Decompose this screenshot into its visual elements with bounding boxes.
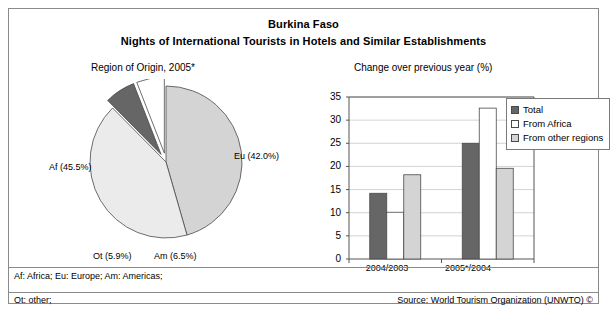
x-axis-tick-1: 2005*/2004 <box>429 263 507 273</box>
y-axis-label-30: 30 <box>319 114 341 125</box>
bar-20042003-from-other-regions <box>404 175 421 259</box>
footer-divider-bottom <box>9 292 598 293</box>
figure-frame: Burkina Faso Nights of International Tou… <box>8 8 599 304</box>
y-axis-label-15: 15 <box>319 184 341 195</box>
bar-20042003-from-africa <box>387 212 404 259</box>
legend-swatch-total-icon <box>511 106 519 114</box>
legend-label-from-africa: From Africa <box>523 119 572 129</box>
footnote-abbreviations: Af: Africa; Eu: Europe; Am: Americas; <box>14 271 163 281</box>
y-axis-label-25: 25 <box>319 137 341 148</box>
legend-label-from-other-regions: From other regions <box>523 133 603 143</box>
legend-item-total: Total <box>511 103 603 117</box>
y-axis-label-5: 5 <box>319 230 341 241</box>
footer-divider-top <box>9 267 598 268</box>
footnote-other: Ot: other; <box>14 295 52 305</box>
y-axis-label-35: 35 <box>319 91 341 102</box>
pie-chart: Af (45.5%) Eu (42.0%) Am (6.5%) Ot (5.9%… <box>21 79 311 264</box>
pie-chart-caption: Region of Origin, 2005* <box>91 62 195 73</box>
bar-20052004-total <box>462 143 479 259</box>
legend-swatch-from-africa-icon <box>511 120 519 128</box>
pie-slice-label-af: Af (45.5%) <box>49 162 92 172</box>
legend-swatch-from-other-regions-icon <box>511 134 519 142</box>
y-axis-label-10: 10 <box>319 207 341 218</box>
legend-item-from-other-regions: From other regions <box>511 131 603 145</box>
y-axis-label-0: 0 <box>319 253 341 264</box>
pie-slice-label-eu: Eu (42.0%) <box>234 151 279 161</box>
bar-20052004-from-other-regions <box>496 168 513 259</box>
page-title: Burkina Faso <box>9 18 598 30</box>
source-attribution: Source: World Tourism Organization (UNWT… <box>397 295 593 305</box>
bar-20052004-from-africa <box>479 108 496 259</box>
legend-item-from-africa: From Africa <box>511 117 603 131</box>
bar-chart: 05101520253035 2004/2003 2005*/2004 Tota… <box>319 79 594 269</box>
page-subtitle: Nights of International Tourists in Hote… <box>9 35 598 47</box>
pie-slice-label-ot: Ot (5.9%) <box>93 251 132 261</box>
legend-label-total: Total <box>523 105 543 115</box>
bar-chart-caption: Change over previous year (%) <box>354 62 492 73</box>
pie-slice-label-am: Am (6.5%) <box>154 251 197 261</box>
x-axis-tick-0: 2004/2003 <box>348 263 426 273</box>
y-axis-label-20: 20 <box>319 160 341 171</box>
bar-20042003-total <box>370 193 387 259</box>
bar-chart-legend: Total From Africa From other regions <box>506 98 610 150</box>
